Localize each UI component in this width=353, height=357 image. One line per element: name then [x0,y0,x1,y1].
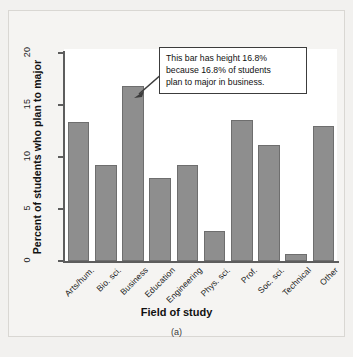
bar-business [122,86,144,261]
y-axis-tick [58,156,64,157]
y-axis-title: Percent of students who plan to major [31,57,43,257]
figure-panel: 05101520 Percent of students who plan to… [8,10,345,337]
y-axis-tick [58,208,64,209]
figure-container: 05101520 Percent of students who plan to… [0,0,353,357]
y-axis-tick [58,260,64,261]
figure-caption: (a) [0,327,353,337]
x-axis-line [63,261,339,263]
y-axis-tick [58,104,64,105]
bar-soc-sci [258,145,280,261]
bar-other [313,126,335,261]
callout-annotation: This bar has height 16.8% because 16.8% … [159,47,307,94]
bar-technical [285,254,307,261]
callout-line-1: This bar has height 16.8% [166,52,300,64]
bar-arts-hum [68,122,90,261]
bar-education [149,178,171,261]
bar-bio-sci [95,165,117,261]
bar-engineering [177,165,199,261]
callout-line-3: plan to major in business. [166,76,300,88]
bar-prof [231,120,253,261]
y-axis-tick [58,52,64,53]
bar-phys-sci [204,231,226,261]
x-axis-title: Field of study [0,306,353,318]
callout-line-2: because 16.8% of students [166,64,300,76]
